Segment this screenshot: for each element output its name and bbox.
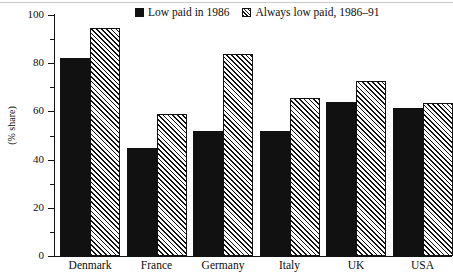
y-tick-label: 20 <box>14 202 44 213</box>
bar <box>290 98 320 256</box>
scan-artifact-line <box>0 2 453 3</box>
bar <box>356 81 386 256</box>
bar <box>393 108 423 256</box>
bar <box>193 131 223 256</box>
bar <box>223 54 253 256</box>
bar <box>127 148 157 256</box>
y-tick-label: 40 <box>14 154 44 165</box>
bar <box>326 102 356 256</box>
y-tick-label: 80 <box>14 57 44 68</box>
bar-group <box>60 14 120 256</box>
bar <box>157 114 187 256</box>
x-category-label: USA <box>368 260 453 272</box>
bar-group <box>127 14 187 256</box>
x-axis-line <box>54 256 452 257</box>
bar-chart: Low paid in 1986 Always low paid, 1986–9… <box>0 0 453 280</box>
bar <box>260 131 290 256</box>
y-tick-major <box>48 256 54 257</box>
plot-area <box>54 14 452 256</box>
bar <box>90 28 120 256</box>
bar <box>60 58 90 256</box>
bar-group <box>393 14 453 256</box>
bar-group <box>260 14 320 256</box>
y-tick-label: 100 <box>14 9 44 20</box>
bar-group <box>326 14 386 256</box>
y-tick-label: 60 <box>14 105 44 116</box>
bar <box>423 103 453 256</box>
bar-group <box>193 14 253 256</box>
